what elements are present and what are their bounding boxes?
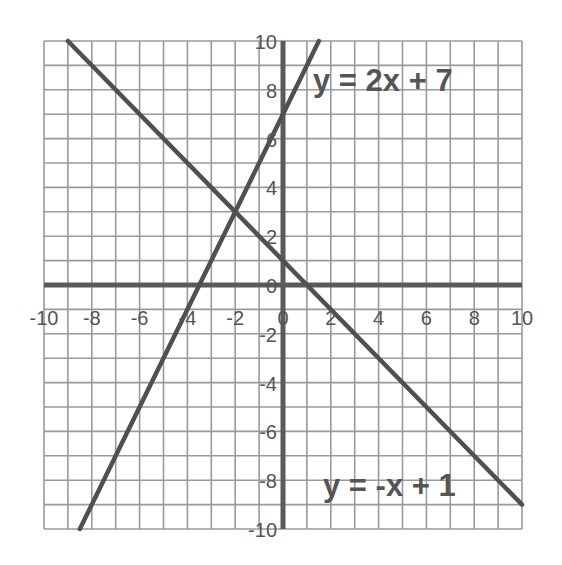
y-tick-label: -2: [259, 324, 277, 346]
y-tick-label: 8: [266, 80, 277, 102]
x-tick-label: 8: [469, 307, 480, 329]
series-line-2: [68, 41, 522, 505]
y-tick-label: 10: [255, 31, 277, 53]
y-tick-label: 4: [266, 177, 277, 199]
y-tick-label: -8: [259, 470, 277, 492]
y-tick-label: 6: [266, 129, 277, 151]
x-tick-label: -8: [83, 307, 101, 329]
x-tick-label: -6: [131, 307, 149, 329]
x-tick-label: 6: [421, 307, 432, 329]
x-tick-label: -2: [226, 307, 244, 329]
x-tick-label: 4: [373, 307, 384, 329]
y-tick-label: -10: [248, 519, 277, 541]
equation-label-line-2: y = -x + 1: [323, 468, 456, 503]
y-tick-label: 2: [266, 226, 277, 248]
y-tick-label: -6: [259, 421, 277, 443]
x-tick-label: 10: [511, 307, 533, 329]
equation-label-line-1: y = 2x + 7: [313, 63, 453, 98]
coordinate-plane: -10-8-6-4-20246810-10-8-6-4-22468100 y =…: [0, 0, 562, 565]
x-tick-label: 2: [325, 307, 336, 329]
x-tick-label: -4: [179, 307, 197, 329]
x-tick-label: -10: [30, 307, 59, 329]
y-tick-label: 0: [266, 275, 277, 297]
y-tick-label: -4: [259, 373, 277, 395]
x-tick-label: 0: [277, 307, 288, 329]
